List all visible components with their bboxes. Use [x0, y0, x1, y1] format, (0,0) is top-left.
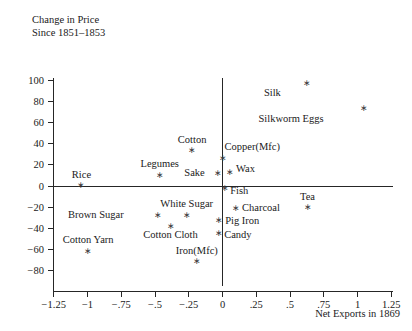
data-point: ∗Fish: [221, 183, 249, 196]
point-label: Tea: [300, 191, 315, 202]
point-label: Silkworm Eggs: [259, 113, 324, 124]
y-tick-label: −40: [28, 223, 44, 234]
point-label: Iron(Mfc): [176, 245, 218, 257]
y-tick-label: 20: [34, 159, 45, 170]
y-tick-label: −80: [28, 265, 44, 276]
data-point: ∗Wax: [226, 163, 256, 177]
data-point: ∗Iron(Mfc): [176, 245, 218, 266]
point-marker: ∗: [303, 78, 311, 88]
data-points: ∗Silk∗Silkworm Eggs∗Cotton∗Copper(Mfc)∗L…: [63, 78, 368, 266]
point-label: Pig Iron: [225, 215, 260, 226]
y-tick-label: 0: [39, 181, 44, 192]
y-tick-label: 60: [34, 117, 45, 128]
x-tick-label: .25: [250, 299, 263, 310]
point-marker: ∗: [215, 228, 223, 238]
point-label: Fish: [230, 185, 249, 196]
data-point: ∗Silkworm Eggs: [259, 103, 368, 124]
data-point: ∗Pig Iron: [215, 215, 260, 226]
data-point: ∗Candy: [215, 228, 252, 240]
point-marker: ∗: [232, 203, 240, 213]
y-tick-label: 40: [34, 138, 45, 149]
x-tick-label: −.25: [179, 299, 198, 310]
point-marker: ∗: [193, 256, 201, 266]
data-point: ∗Cotton Cloth: [143, 221, 198, 240]
plot-area: −80−60−40−20020406080100−1.25−1−.75−.5−.…: [0, 0, 412, 331]
data-point: ∗Sake: [184, 167, 221, 178]
point-marker: ∗: [304, 202, 312, 212]
point-label: Silk: [264, 87, 282, 98]
data-point: ∗Silk: [264, 78, 311, 98]
y-tick-label: 80: [34, 96, 45, 107]
point-marker: ∗: [214, 168, 222, 178]
point-marker: ∗: [188, 145, 196, 155]
data-point: ∗Rice: [72, 169, 92, 190]
data-point: ∗Cotton: [178, 134, 207, 155]
point-marker: ∗: [84, 246, 92, 256]
point-label: Copper(Mfc): [225, 141, 281, 153]
x-tick-label: −.5: [148, 299, 162, 310]
point-label: Sake: [184, 167, 205, 178]
point-marker: ∗: [219, 153, 227, 163]
point-label: Brown Sugar: [68, 209, 124, 220]
point-label: Rice: [72, 169, 92, 180]
point-label: Cotton: [178, 134, 207, 145]
data-point: ∗Charcoal: [232, 202, 280, 213]
point-marker: ∗: [221, 183, 229, 193]
data-point: ∗Brown Sugar: [68, 209, 162, 220]
point-marker: ∗: [360, 103, 368, 113]
point-marker: ∗: [77, 180, 85, 190]
point-label: Candy: [224, 229, 252, 240]
x-tick-label: −1: [82, 299, 93, 310]
data-point: ∗White Sugar: [160, 198, 213, 220]
axis-ticks: −80−60−40−20020406080100−1.25−1−.75−.5−.…: [28, 75, 401, 310]
point-label: Wax: [236, 163, 256, 174]
point-marker: ∗: [226, 167, 234, 177]
point-marker: ∗: [156, 170, 164, 180]
point-label: Cotton Yarn: [63, 234, 115, 245]
x-axis-label: Net Exports in 1869: [315, 308, 400, 319]
point-marker: ∗: [215, 215, 223, 225]
point-label: White Sugar: [160, 198, 213, 209]
x-tick-label: −.75: [112, 299, 131, 310]
y-tick-label: −60: [28, 244, 44, 255]
point-label: Charcoal: [242, 202, 280, 213]
x-tick-label: −1.25: [42, 299, 66, 310]
data-point: ∗Legumes: [140, 158, 179, 179]
y-tick-label: −20: [28, 202, 44, 213]
point-marker: ∗: [183, 210, 191, 220]
x-tick-label: 0: [220, 299, 225, 310]
data-point: ∗Cotton Yarn: [63, 234, 115, 256]
scatter-chart: Change in Price Since 1851–1853 −80−60−4…: [0, 0, 412, 331]
x-tick-label: .5: [286, 299, 294, 310]
data-point: ∗Copper(Mfc): [219, 141, 281, 162]
y-tick-label: 100: [28, 75, 44, 86]
point-marker: ∗: [154, 210, 162, 220]
point-label: Cotton Cloth: [143, 229, 198, 240]
point-label: Legumes: [140, 158, 179, 169]
data-point: ∗Tea: [300, 191, 315, 212]
